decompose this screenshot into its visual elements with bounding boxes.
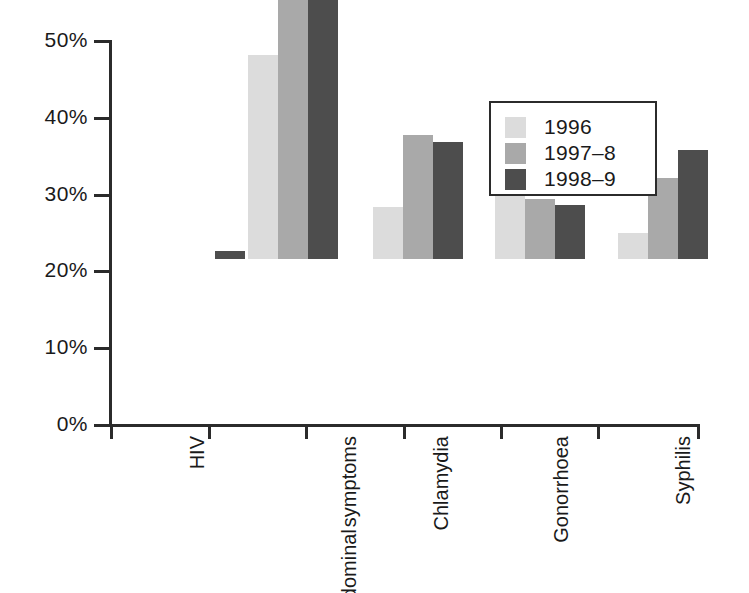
legend-label: 1997–8: [544, 141, 616, 165]
x-axis-label-line: abdominal: [338, 527, 360, 593]
legend-swatch: [505, 143, 526, 164]
bar: [525, 199, 555, 259]
bar: [433, 142, 463, 259]
x-axis-label-line: HIV: [186, 434, 208, 469]
bar: [278, 0, 308, 259]
bar-chart: 50%40%30%20%10%0% HIVNon- specificabdomi…: [0, 0, 749, 593]
bar: [308, 0, 338, 259]
legend-item: 1996: [505, 115, 592, 139]
x-axis-label-line: Gonorrhoea: [550, 434, 572, 543]
legend-swatch: [505, 117, 526, 138]
legend-item: 1998–9: [505, 167, 616, 191]
x-axis-category-label: HIV: [186, 434, 336, 584]
legend-item: 1997–8: [505, 141, 616, 165]
x-axis-category-label: Chlamydia: [430, 434, 580, 584]
bar: [555, 205, 585, 259]
bar: [215, 251, 245, 259]
x-axis-category-label: Syphilis: [672, 434, 749, 584]
legend-label: 1996: [544, 115, 592, 139]
x-axis-label-line: symptoms: [338, 434, 360, 527]
bar: [678, 150, 708, 259]
x-axis-label-line: Chlamydia: [430, 434, 452, 530]
legend-label: 1998–9: [544, 167, 616, 191]
x-axis-label-line: Syphilis: [672, 434, 694, 505]
bar: [373, 207, 403, 259]
bar: [403, 135, 433, 259]
legend-swatch: [505, 169, 526, 190]
bar: [248, 55, 278, 259]
plot-area: [0, 0, 749, 427]
x-axis-category-label: Non- specificabdominalsymptoms: [338, 434, 488, 584]
chart-legend: 19961997–81998–9: [489, 101, 657, 196]
bar: [618, 233, 648, 259]
x-axis-category-label: Gonorrhoea: [550, 434, 700, 584]
